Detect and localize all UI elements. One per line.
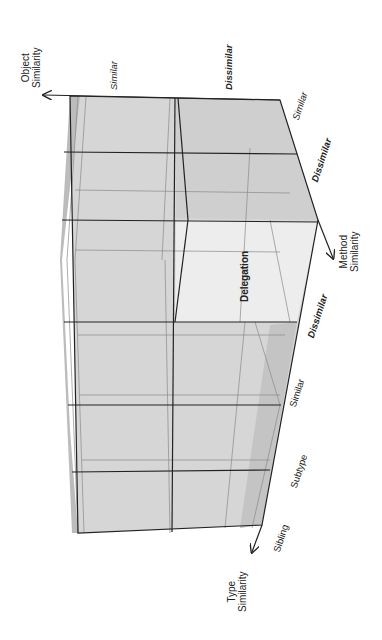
cube-diagram: Object Similarity Similar Dissimilar Sim…: [0, 0, 382, 640]
method-similarity-title: Method Similarity: [338, 231, 360, 272]
type-axis-arrow: [252, 525, 262, 552]
object-dissimilar-label: Dissimilar: [223, 45, 234, 90]
type-similarity-title: Type Similarity: [226, 571, 248, 612]
method-axis-arrow: [318, 220, 333, 258]
delegation-label: Delegation: [239, 251, 250, 302]
cube-graphic: [0, 0, 382, 640]
object-similar-label: Similar: [108, 61, 119, 90]
object-similarity-title: Object Similarity: [20, 47, 42, 88]
